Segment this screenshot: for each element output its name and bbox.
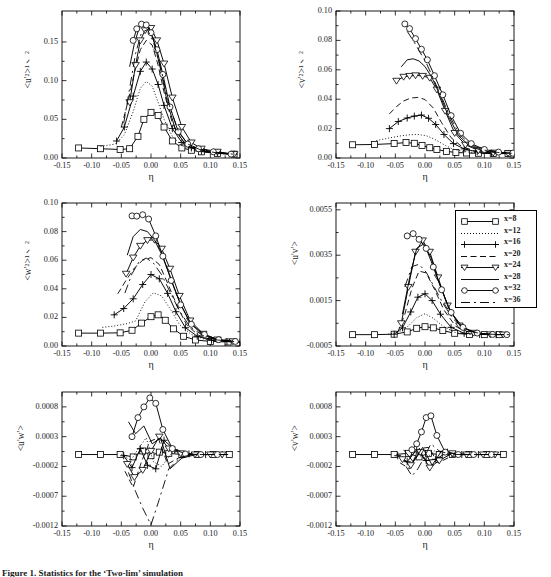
panel-w-rms-xtick-label: 0.00 (133, 349, 169, 358)
panel-v-rms-ytick-label: 0.00 (302, 153, 332, 162)
panel-w-rms-ytick-label: 0.08 (28, 227, 58, 236)
series-x-32 (402, 21, 516, 156)
panel-uw-ytick-label: -0.0002 (22, 461, 58, 470)
series-x-24 (124, 434, 226, 480)
panel-uw-xtick-label: 0.00 (133, 529, 169, 538)
panel-vw-ytick-label: -0.0007 (296, 491, 332, 500)
panel-w-rms-xtick-label: 0.10 (192, 349, 228, 358)
series-x-32 (409, 413, 495, 458)
legend-line-sample-x-28 (458, 271, 502, 282)
panel-vw-xaxis-label: η (405, 539, 445, 550)
panel-uw-ytick-label: 0.0008 (22, 402, 58, 411)
panel-uv-xtick-label: -0.10 (348, 349, 384, 358)
legend-line-sample-x-12 (458, 225, 502, 236)
panel-uw-ytick-label: 0.0003 (22, 432, 58, 441)
panel-uw-yaxis-label: <u'w'> (16, 425, 26, 451)
panel-u-rms-xaxis-label: η (131, 171, 171, 182)
series-x-20 (400, 447, 497, 468)
panel-uw-xtick-label: -0.05 (103, 529, 139, 538)
series-x-12 (102, 293, 237, 342)
legend: x=8x=12x=16x=20x=24x=28x=32x=36 (455, 210, 537, 308)
panel-vw-xtick-label: -0.15 (318, 529, 354, 538)
legend-item-x-20[interactable]: x=20 (458, 248, 534, 260)
series-x-12 (121, 438, 221, 467)
panel-vw-xtick-label: -0.05 (377, 529, 413, 538)
series-x-12 (376, 134, 508, 153)
series-x-8 (76, 109, 237, 157)
series-x-28 (404, 447, 501, 465)
panel-uv-ytick-label: 0.0015 (296, 296, 332, 305)
series-x-8 (350, 140, 511, 157)
panel-v-rms-ytick-label: 0.10 (302, 6, 332, 15)
panel-uv-yaxis-label: <u'v'> (290, 241, 300, 265)
series-x-16 (111, 271, 244, 346)
panel-w-rms-xtick-label: -0.10 (74, 349, 110, 358)
panel-u-rms-ytick-label: 0.05 (28, 114, 58, 123)
figure-caption: Figure 1. Statistics for the ‘Two-lim’ s… (2, 568, 551, 577)
panel-vw-ytick-label: -0.0002 (296, 461, 332, 470)
series-x-16 (386, 112, 512, 157)
series-x-12 (101, 81, 235, 154)
panel-v-rms-xaxis-label: η (405, 171, 445, 182)
series-x-16 (120, 437, 226, 473)
panel-u-rms-xtick-label: 0.05 (163, 161, 199, 170)
panel-w-rms-xtick-label: 0.15 (222, 349, 258, 358)
panel-vw-yaxis-label: <v'w'> (290, 425, 300, 451)
legend-line-sample-x-16 (458, 236, 502, 247)
panel-w-rms-ytick-label: 0.06 (28, 255, 58, 264)
panel-uv-ytick-label: -0.0005 (296, 341, 332, 350)
panel-u-rms-xtick-label: 0.10 (192, 161, 228, 170)
legend-item-x-36[interactable]: x=36 (458, 294, 534, 306)
panel-w-rms-xtick-label: -0.15 (44, 349, 80, 358)
panel-vw-xtick-label: 0.15 (496, 529, 532, 538)
legend-item-x-24[interactable]: x=24 (458, 259, 534, 271)
panel-vw-xtick-label: 0.05 (437, 529, 473, 538)
series-x-12 (397, 451, 492, 459)
panel-v-rms-ytick-label: 0.02 (302, 124, 332, 133)
panel-uv-ytick-label: 0.0035 (296, 250, 332, 259)
legend-item-x-16[interactable]: x=16 (458, 236, 534, 248)
panel-v-rms-yaxis-label: <v'²>¹ᐟ² (296, 51, 307, 89)
panel-v-rms-xtick-label: -0.15 (318, 161, 354, 170)
legend-label: x=36 (502, 295, 521, 304)
series-x-8 (350, 450, 507, 460)
legend-label: x=32 (502, 283, 521, 292)
panel-v-rms-ytick-label: 0.08 (302, 35, 332, 44)
series-x-32 (129, 212, 238, 345)
panel-vw-ytick-label: 0.0003 (296, 432, 332, 441)
panel-uw-xtick-label: -0.10 (74, 529, 110, 538)
legend-item-x-32[interactable]: x=32 (458, 282, 534, 294)
series-x-36 (407, 31, 511, 153)
panel-uw-xtick-label: -0.15 (44, 529, 80, 538)
legend-line-sample-x-36 (458, 294, 502, 305)
panel-uw-ytick-label: -0.0012 (22, 521, 58, 530)
panel-u-rms-ytick-label: 0.00 (28, 153, 58, 162)
panel-uv-xtick-label: 0.15 (496, 349, 532, 358)
legend-item-x-28[interactable]: x=28 (458, 271, 534, 283)
panel-vw-ytick-label: 0.0008 (296, 402, 332, 411)
series-x-36 (125, 258, 234, 342)
panel-w-rms-xaxis-label: η (131, 359, 171, 370)
panel-v-rms-xtick-label: 0.05 (437, 161, 473, 170)
panel-uv-xaxis-label: η (405, 359, 445, 370)
legend-item-x-12[interactable]: x=12 (458, 225, 534, 237)
series-x-36 (406, 444, 501, 476)
panel-u-rms-xtick-label: 0.15 (222, 161, 258, 170)
legend-item-x-8[interactable]: x=8 (458, 213, 534, 225)
panel-uv-xtick-label: 0.10 (466, 349, 502, 358)
legend-label: x=12 (502, 226, 521, 235)
series-x-8 (76, 448, 233, 460)
panel-u-rms-yaxis-label: <u'²>¹ᐟ² (22, 51, 33, 89)
panel-v-rms-xtick-label: 0.00 (407, 161, 443, 170)
series-x-12 (388, 314, 499, 335)
panel-uw-xtick-label: 0.10 (192, 529, 228, 538)
series-x-24 (122, 237, 236, 344)
series-x-24 (399, 450, 499, 471)
panel-v-rms-ytick-label: 0.04 (302, 94, 332, 103)
panel-vw-xtick-label: 0.10 (466, 529, 502, 538)
panel-v-rms-xtick-label: 0.10 (466, 161, 502, 170)
panel-v-rms-xtick-label: 0.15 (496, 161, 532, 170)
panel-uv-xtick-label: 0.00 (407, 349, 443, 358)
panel-w-rms-ytick-label: 0.02 (28, 312, 58, 321)
panel-w-rms-ytick-label: 0.00 (28, 341, 58, 350)
